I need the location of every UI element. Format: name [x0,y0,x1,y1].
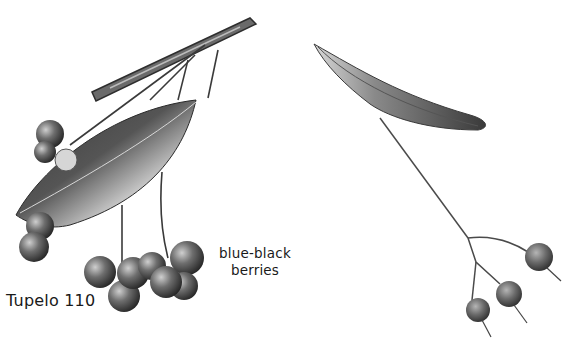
species-label: Tupelo 110 [6,291,95,310]
berry-cluster [84,241,204,312]
bract [314,44,486,130]
berries-annotation-line2: berries [215,262,295,279]
bract-specimen [314,44,561,337]
berries-annotation-line1: blue-black [215,245,295,262]
stalks [380,118,528,300]
berries-annotation: blue-black berries [215,245,295,279]
